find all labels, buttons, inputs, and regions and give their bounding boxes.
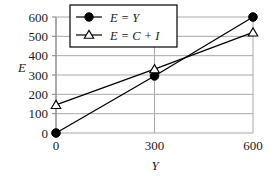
x-tick-label: 0 [53, 138, 60, 153]
y-axis-title: E [17, 60, 26, 75]
data-point-filled-circle [52, 129, 61, 138]
legend-label-0: E = Y [109, 11, 141, 25]
y-tick-label: 400 [29, 48, 49, 63]
keynesian-cross-chart: 0100200300400500600 0300600 E Y E = Y E … [0, 0, 279, 176]
y-tick-label: 600 [29, 10, 49, 25]
y-tick-label: 200 [29, 87, 49, 102]
y-tick-label: 0 [42, 126, 49, 141]
y-tick-label: 100 [29, 106, 49, 121]
legend: E = Y E = C + I [70, 5, 177, 47]
x-tick-label: 300 [145, 138, 165, 153]
y-axis-tick-labels: 0100200300400500600 [29, 10, 49, 141]
x-tick-label: 600 [243, 138, 263, 153]
legend-label-1: E = C + I [109, 29, 160, 43]
y-tick-label: 300 [29, 68, 49, 83]
chart-container: 0100200300400500600 0300600 E Y E = Y E … [0, 0, 279, 176]
data-point-filled-circle [249, 13, 258, 22]
filled-circle-marker [85, 13, 93, 21]
y-tick-label: 500 [29, 29, 49, 44]
